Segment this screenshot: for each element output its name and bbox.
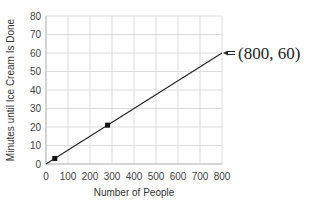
x-tick-label: 100 (60, 171, 77, 182)
y-tick-label: 60 (30, 48, 42, 59)
y-axis-label: Minutes until Ice Cream Is Done (5, 18, 16, 161)
x-tick-label: 700 (192, 171, 209, 182)
y-tick-label: 20 (30, 122, 42, 133)
x-tick-label: 300 (104, 171, 121, 182)
annotation: (800, 60) (223, 44, 300, 63)
x-tick-label: 400 (126, 171, 143, 182)
x-axis-label: Number of People (94, 187, 175, 198)
x-tick-label: 500 (148, 171, 165, 182)
y-tick-label: 0 (35, 159, 41, 170)
y-tick-label: 10 (30, 140, 42, 151)
x-tick-label: 800 (214, 171, 231, 182)
data-point (52, 156, 57, 161)
y-tick-label: 50 (30, 66, 42, 77)
x-tick-label: 200 (82, 171, 99, 182)
y-tick-label: 80 (30, 11, 42, 22)
annotation-label: (800, 60) (238, 44, 300, 63)
y-tick-label: 40 (30, 85, 42, 96)
x-axis-ticks: 0100200300400500600700800 (43, 171, 231, 182)
y-tick-label: 70 (30, 29, 42, 40)
y-axis-ticks: 01020304050607080 (30, 11, 42, 170)
line-chart: 0100200300400500600700800 01020304050607… (0, 0, 327, 205)
data-point (105, 123, 110, 128)
x-tick-label: 0 (43, 171, 49, 182)
grid (46, 16, 222, 164)
x-tick-label: 600 (170, 171, 187, 182)
y-tick-label: 30 (30, 103, 42, 114)
